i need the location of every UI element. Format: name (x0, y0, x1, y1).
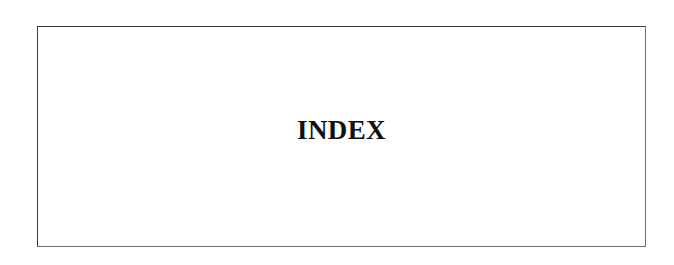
scanned-page: INDEX (0, 0, 674, 265)
page-title: INDEX (297, 117, 386, 144)
index-page-frame: INDEX (37, 26, 646, 247)
heading-area: INDEX (38, 27, 645, 246)
